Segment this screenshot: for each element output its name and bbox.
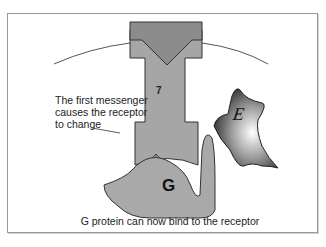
diagram-canvas — [0, 0, 326, 247]
effector-shape — [214, 89, 278, 168]
receptor-segment-label: 7 — [156, 85, 162, 96]
caption: G protein can now bind to the receptor — [60, 215, 280, 227]
g-protein-label: G — [162, 176, 175, 196]
first-messenger-label: The first messenger causes the receptor … — [55, 94, 155, 130]
